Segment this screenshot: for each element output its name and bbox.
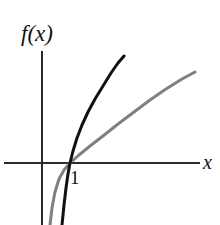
- y-axis-label: f(x): [21, 22, 53, 45]
- x-intercept-tick-label: 1: [70, 168, 80, 187]
- series-group: [50, 56, 195, 225]
- logarithm-curve: [50, 72, 195, 225]
- figure-root: f(x) x 1: [0, 0, 220, 225]
- x-axis-label: x: [203, 152, 212, 172]
- exponential-curve: [62, 56, 124, 225]
